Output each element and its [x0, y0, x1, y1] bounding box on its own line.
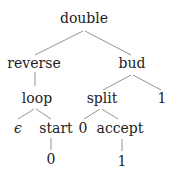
edge-bud-split [103, 75, 131, 90]
node-epsilon: ϵ [14, 121, 22, 135]
node-split: split [87, 91, 118, 105]
edge-double-reverse [35, 31, 83, 55]
node-1-accept: 1 [118, 154, 127, 168]
edge-split-accept [102, 109, 118, 119]
node-reverse: reverse [7, 56, 60, 70]
node-double: double [60, 11, 108, 25]
edge-bud-1 [133, 75, 161, 90]
edge-split-0 [84, 109, 100, 119]
node-0-start: 0 [47, 152, 56, 166]
node-1-leaf: 1 [158, 91, 167, 105]
tree-diagram: double reverse bud loop split 1 ϵ start … [0, 0, 170, 180]
node-0-split: 0 [79, 121, 88, 135]
node-start: start [39, 121, 72, 135]
node-accept: accept [97, 121, 144, 135]
edge-loop-epsilon [18, 109, 34, 119]
node-loop: loop [22, 91, 52, 105]
node-bud: bud [119, 56, 146, 70]
edge-double-bud [85, 31, 131, 55]
edge-loop-start [36, 109, 51, 119]
